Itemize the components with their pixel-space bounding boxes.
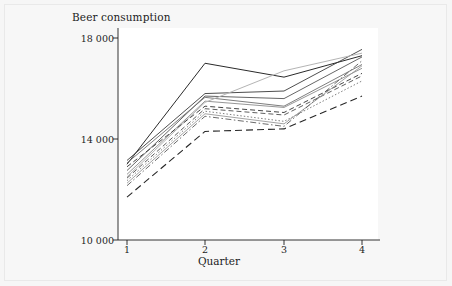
series-line-series-7: [127, 73, 362, 166]
series-line-series-1: [127, 56, 362, 165]
series-line-series-12: [127, 96, 362, 197]
axis-lines: [113, 28, 380, 245]
series-line-series-4: [127, 65, 362, 163]
series-line-series-5: [127, 68, 362, 174]
figure-container: Beer consumption 18 000 14 000 10 000 1 …: [0, 0, 452, 286]
chart-plot: [0, 0, 452, 286]
series-line-series-6: [127, 53, 362, 177]
series-line-series-3: [127, 57, 362, 171]
series-lines: [127, 49, 362, 197]
